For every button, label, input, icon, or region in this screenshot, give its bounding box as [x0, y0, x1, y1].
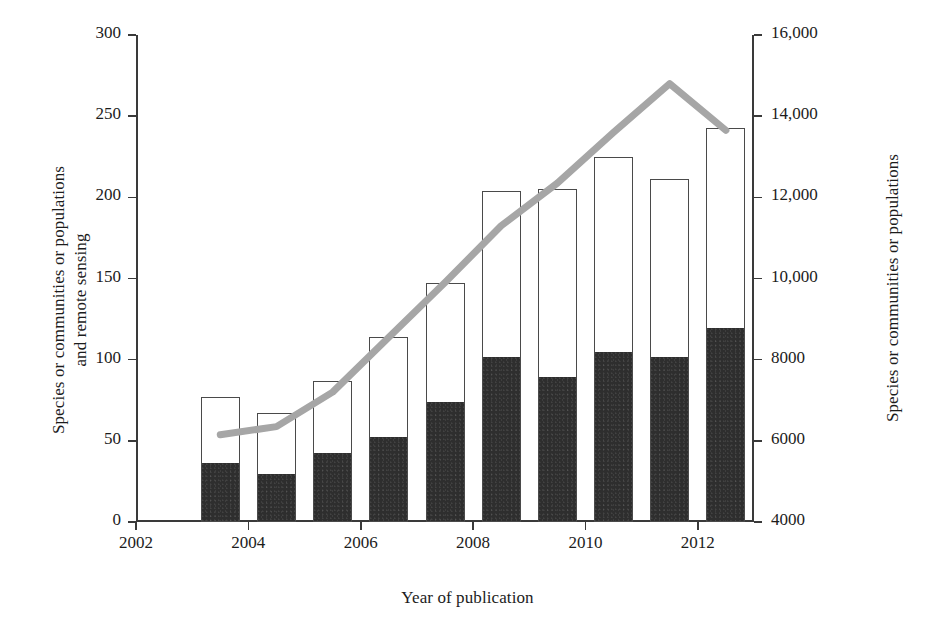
y-axis-left-tick: [128, 440, 136, 442]
y-axis-right-tick: [754, 115, 762, 117]
x-axis-tick: [472, 522, 474, 530]
x-axis-tick: [360, 522, 362, 530]
y-axis-right-tick-label: 4000: [771, 510, 805, 530]
y-axis-left-tick-label: 0: [113, 510, 122, 530]
y-axis-left-tick-label: 200: [96, 185, 122, 205]
y-axis-right-tick: [754, 278, 762, 280]
grey-line-series: [220, 84, 726, 435]
x-axis-tick-label: 2008: [428, 533, 518, 553]
y-axis-left-tick: [128, 278, 136, 280]
x-axis-tick: [585, 522, 587, 530]
x-axis-tick-label: 2002: [91, 533, 181, 553]
chart-figure: Species or communities or populations an…: [0, 0, 935, 633]
y-axis-right-tick-label: 16,000: [771, 23, 818, 43]
y-axis-left-tick: [128, 197, 136, 199]
y-axis-right-tick-label: 6000: [771, 429, 805, 449]
y-axis-right-tick: [754, 197, 762, 199]
y-axis-left-tick-label: 100: [96, 348, 122, 368]
y-axis-right-tick: [754, 34, 762, 36]
y-axis-right-tick: [754, 440, 762, 442]
plot-area: 050100150200250300 40006000800010,00012,…: [136, 35, 754, 522]
y-axis-left-tick-label: 250: [96, 104, 122, 124]
y-axis-right-tick: [754, 359, 762, 361]
y-axis-left-tick-label: 50: [104, 429, 121, 449]
y-axis-left-tick: [128, 115, 136, 117]
y-axis-right-tick: [754, 521, 762, 523]
y-axis-left-tick-label: 300: [96, 23, 122, 43]
x-axis-tick: [248, 522, 250, 530]
x-axis-title: Year of publication: [0, 588, 935, 608]
y-axis-right-tick-label: 10,000: [771, 267, 818, 287]
y-axis-left-tick-label: 150: [96, 267, 122, 287]
x-axis-tick-label: 2012: [653, 533, 743, 553]
y-axis-right-tick-label: 12,000: [771, 185, 818, 205]
y-axis-right-title: Species or communities or populations: [883, 118, 903, 458]
y-axis-left-title-line1: Species or communities or populations: [49, 166, 68, 434]
y-axis-left-tick: [128, 359, 136, 361]
x-axis-tick: [135, 522, 137, 530]
x-axis-tick: [697, 522, 699, 530]
y-axis-left-tick: [128, 34, 136, 36]
x-axis-tick-label: 2010: [540, 533, 630, 553]
y-axis-right-tick-label: 14,000: [771, 104, 818, 124]
y-axis-left-title: Species or communities or populations an…: [48, 130, 92, 470]
y-axis-left-title-line2: and remote sensing: [70, 130, 92, 470]
x-axis-tick-label: 2006: [316, 533, 406, 553]
y-axis-right-tick-label: 8000: [771, 348, 805, 368]
line-series-svg: [136, 35, 754, 522]
x-axis-tick-label: 2004: [203, 533, 293, 553]
